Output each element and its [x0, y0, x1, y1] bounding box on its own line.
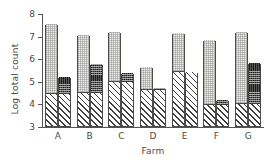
- bar-segment-light: [78, 35, 89, 93]
- bar-segment-light: [204, 40, 215, 104]
- bar-segment-base: [217, 105, 228, 126]
- bar-right: [121, 74, 134, 127]
- bar-segment-base: [91, 93, 102, 126]
- bar-group: [235, 14, 261, 127]
- bar-segment-dark: [249, 63, 260, 104]
- bar-segment-base: [78, 93, 89, 126]
- y-tick-label: 4: [21, 100, 35, 109]
- y-tick-mark: [38, 82, 42, 83]
- bar-segment-base: [204, 105, 215, 126]
- y-tick-mark: [38, 59, 42, 60]
- bar-segment-dark: [217, 100, 228, 104]
- x-axis-line: [42, 127, 264, 128]
- bar-group: [45, 14, 71, 127]
- y-tick-label: 5: [21, 78, 35, 87]
- bar-left: [172, 34, 185, 127]
- bar-right: [185, 73, 198, 127]
- x-tick-label: D: [138, 132, 168, 141]
- bar-right: [216, 101, 229, 127]
- bar-segment-dark: [59, 77, 70, 94]
- x-tick-label: E: [170, 132, 200, 141]
- x-tick-label: A: [43, 132, 73, 141]
- x-tick-label: G: [233, 132, 263, 141]
- bar-group: [172, 14, 198, 127]
- bar-segment-base: [236, 104, 247, 126]
- x-tick-label: B: [75, 132, 105, 141]
- bar-segment-base: [186, 72, 197, 126]
- plot-area: 345678 ABCDEFG: [42, 14, 264, 128]
- bar-group: [203, 14, 229, 127]
- x-tick-label: C: [106, 132, 136, 141]
- bar-segment-base: [109, 82, 120, 126]
- bar-segment-light: [236, 32, 247, 104]
- bar-segment-base: [122, 82, 133, 126]
- y-tick-mark: [38, 37, 42, 38]
- y-tick-label: 6: [21, 55, 35, 64]
- y-tick-label: 3: [21, 123, 35, 132]
- y-axis-line: [42, 14, 43, 128]
- bar-segment-base: [154, 90, 165, 126]
- bar-left: [108, 33, 121, 127]
- bar-left: [235, 33, 248, 127]
- y-tick-mark: [38, 14, 42, 15]
- bar-segment-base: [173, 72, 184, 126]
- bar-right: [153, 89, 166, 127]
- y-tick-label: 8: [21, 10, 35, 19]
- bar-right: [90, 65, 103, 127]
- bar-chart-figure: Log total count 345678 ABCDEFG Farm: [0, 0, 272, 168]
- bar-segment-base: [141, 90, 152, 126]
- bar-right: [248, 64, 261, 127]
- bar-segment-dark: [91, 64, 102, 93]
- bar-segment-dark: [154, 88, 165, 90]
- bar-segment-dark: [122, 73, 133, 82]
- bar-left: [140, 68, 153, 127]
- bar-segment-light: [141, 67, 152, 90]
- x-axis-title: Farm: [42, 146, 264, 156]
- y-tick-mark: [38, 104, 42, 105]
- bar-group: [77, 14, 103, 127]
- bar-segment-light: [173, 33, 184, 72]
- bar-segment-base: [46, 94, 57, 126]
- x-tick-label: F: [201, 132, 231, 141]
- bar-left: [203, 41, 216, 127]
- bar-right: [58, 78, 71, 127]
- bar-group: [108, 14, 134, 127]
- bar-segment-light: [46, 24, 57, 94]
- bar-segment-base: [59, 94, 70, 126]
- bar-group: [140, 14, 166, 127]
- bar-segment-base: [249, 104, 260, 126]
- y-tick-label: 7: [21, 33, 35, 42]
- bar-segment-light: [109, 32, 120, 82]
- bar-left: [77, 36, 90, 127]
- bar-left: [45, 25, 58, 127]
- y-tick-mark: [38, 127, 42, 128]
